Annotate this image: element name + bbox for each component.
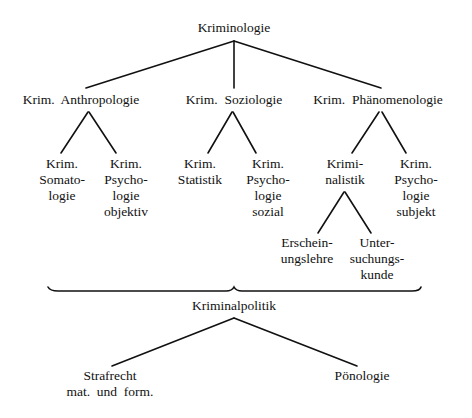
- node-line: Krim.: [104, 156, 148, 172]
- node-line: Unter-: [350, 235, 405, 251]
- node-line: Psycho-: [246, 172, 290, 188]
- node-line: logie: [39, 188, 85, 204]
- node-label: Kriminologie: [198, 20, 271, 36]
- node-line: Krim.: [178, 156, 222, 172]
- node-label: Krim. Phänomenologie: [313, 92, 442, 108]
- node-label: Kriminalpolitik: [192, 298, 276, 314]
- node-line: Psycho-: [104, 172, 148, 188]
- node-line: Strafrecht: [67, 368, 154, 384]
- node-line: sozial: [246, 204, 290, 220]
- node-line: nalistik: [325, 172, 365, 188]
- node-line: Krim.: [394, 156, 438, 172]
- node-krim-soziologie: Krim. Soziologie: [186, 92, 282, 108]
- edge-root-phaenomenologie: [234, 41, 381, 88]
- edge-kriminalistik-erscheinungslehre: [318, 192, 344, 233]
- node-line: subjekt: [394, 204, 438, 220]
- node-line: Statistik: [178, 172, 222, 188]
- edge-kriminalpolitik-strafrecht: [112, 318, 234, 366]
- node-label: Krim. Anthropologie: [23, 92, 140, 108]
- node-krim-anthropologie: Krim. Anthropologie: [23, 92, 140, 108]
- underbrace: [48, 287, 421, 291]
- node-erscheinungslehre: Erschein- ungslehre: [281, 235, 333, 267]
- node-line: Psycho-: [394, 172, 438, 188]
- node-krim-somatologie: Krim. Somato- logie: [39, 156, 85, 204]
- node-line: suchungs-: [350, 251, 405, 267]
- node-poenologie: Pönologie: [335, 368, 390, 384]
- edge-anthropologie-psychologie-objektiv: [89, 112, 116, 153]
- edge-kriminalpolitik-poenologie: [234, 318, 357, 366]
- node-line: Somato-: [39, 172, 85, 188]
- node-line: Krim.: [246, 156, 290, 172]
- node-line: Krimi-: [325, 156, 365, 172]
- edge-soziologie-psychologie-sozial: [233, 112, 256, 153]
- edge-anthropologie-somatologie: [61, 112, 88, 153]
- node-line: mat. und form.: [67, 384, 154, 400]
- node-untersuchungskunde: Unter- suchungs- kunde: [350, 235, 405, 283]
- node-line: Krim.: [39, 156, 85, 172]
- node-line: Erschein-: [281, 235, 333, 251]
- node-line: ungslehre: [281, 251, 333, 267]
- node-krim-psychologie-sozial: Krim. Psycho- logie sozial: [246, 156, 290, 220]
- node-krim-psychologie-objektiv: Krim. Psycho- logie objektiv: [104, 156, 148, 220]
- node-label: Krim. Soziologie: [186, 92, 282, 108]
- node-line: logie: [394, 188, 438, 204]
- edge-soziologie-statistik: [208, 112, 232, 153]
- node-strafrecht: Strafrecht mat. und form.: [67, 368, 154, 400]
- criminology-tree-diagram: Kriminologie Krim. Anthropologie Krim. S…: [0, 0, 472, 418]
- node-krim-statistik: Krim. Statistik: [178, 156, 222, 188]
- edge-kriminalistik-untersuchungskunde: [345, 192, 371, 233]
- edge-phaenomenologie-kriminalistik: [352, 112, 379, 153]
- node-kriminologie: Kriminologie: [198, 20, 271, 36]
- node-line: objektiv: [104, 204, 148, 220]
- node-line: logie: [246, 188, 290, 204]
- edge-root-anthropologie: [86, 41, 234, 88]
- node-krim-phaenomenologie: Krim. Phänomenologie: [313, 92, 442, 108]
- node-line: kunde: [350, 267, 405, 283]
- node-krim-psychologie-subjekt: Krim. Psycho- logie subjekt: [394, 156, 438, 220]
- node-line: Pönologie: [335, 368, 390, 384]
- node-kriminalistik: Krimi- nalistik: [325, 156, 365, 188]
- edge-phaenomenologie-psychologie-subjekt: [382, 112, 406, 153]
- node-kriminalpolitik: Kriminalpolitik: [192, 298, 276, 314]
- node-line: logie: [104, 188, 148, 204]
